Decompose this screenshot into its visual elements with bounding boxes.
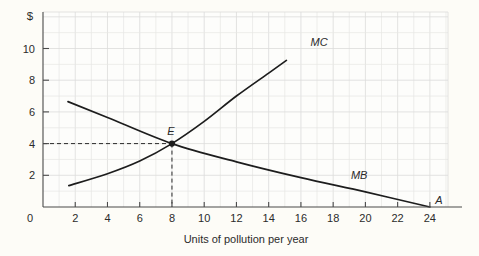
y-tick-label: 2 [29, 169, 35, 181]
x-tick-label: 10 [198, 212, 210, 224]
x-tick-label: 4 [104, 212, 110, 224]
x-tick-label: 18 [327, 212, 339, 224]
curve-label-mc: MC [311, 36, 328, 48]
x-tick-label: 16 [295, 212, 307, 224]
point-marker-e [169, 141, 175, 147]
curve-label-mb: MB [351, 169, 368, 181]
origin-label: 0 [27, 212, 33, 224]
y-axis-unit-label: $ [27, 10, 34, 22]
y-tick-label: 4 [29, 138, 35, 150]
x-tick-label: 24 [424, 212, 436, 224]
chart-svg: MCMB 24681012141618202224246810 EA $ 0 U… [0, 0, 479, 256]
x-tick-label: 20 [359, 212, 371, 224]
x-tick-label: 8 [169, 212, 175, 224]
y-tick-label: 6 [29, 106, 35, 118]
x-tick-label: 12 [230, 212, 242, 224]
x-tick-label: 6 [137, 212, 143, 224]
point-label-a: A [434, 194, 442, 206]
x-tick-label: 2 [72, 212, 78, 224]
plot-area-background [43, 12, 448, 207]
point-label-e: E [167, 125, 175, 137]
economics-chart-figure: MCMB 24681012141618202224246810 EA $ 0 U… [0, 0, 479, 256]
x-tick-label: 14 [263, 212, 275, 224]
x-axis-title: Units of pollution per year [184, 233, 309, 245]
x-tick-label: 22 [392, 212, 404, 224]
y-tick-label: 8 [29, 74, 35, 86]
y-tick-label: 10 [23, 43, 35, 55]
